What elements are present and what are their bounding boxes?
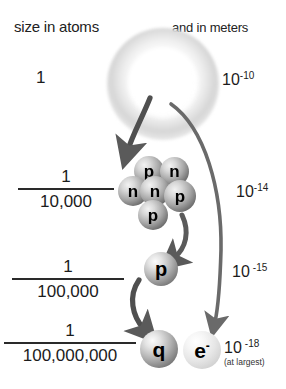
row-quark-exponent: -18 bbox=[245, 338, 259, 349]
particle-electron: e- bbox=[183, 331, 221, 369]
row-quark-size-in-atoms: 1 100,000,000 bbox=[4, 322, 136, 365]
row-proton-mantissa: 10 bbox=[232, 263, 250, 280]
row-atom-size-in-atoms: 1 bbox=[36, 68, 45, 88]
nucleon-proton-2: p bbox=[164, 180, 196, 212]
nucleon-proton-3: p bbox=[138, 200, 168, 230]
row-atom-exponent: -10 bbox=[240, 70, 254, 81]
nucleon-label: p bbox=[148, 207, 158, 224]
nucleon-label: n bbox=[150, 183, 160, 200]
fraction-bar-proton bbox=[12, 278, 124, 280]
particle-quark-label: q bbox=[153, 339, 166, 360]
row-quark-numerator: 1 bbox=[4, 322, 136, 340]
particle-proton: p bbox=[144, 252, 178, 286]
row-atom-mantissa: 10 bbox=[222, 71, 240, 88]
particle-electron-charge: - bbox=[206, 339, 210, 353]
particle-electron-label: e- bbox=[194, 340, 210, 361]
row-quark-meters-note: (at largest) bbox=[224, 357, 265, 367]
row-nucleus-size-in-meters: 10-14 bbox=[236, 182, 268, 201]
row-nucleus-mantissa: 10 bbox=[236, 183, 254, 200]
particle-quark: q bbox=[140, 330, 178, 368]
row-proton-denominator: 100,000 bbox=[12, 282, 124, 301]
nucleon-label: n bbox=[128, 183, 138, 200]
fraction-bar-quark bbox=[4, 342, 136, 344]
row-quark-denominator: 100,000,000 bbox=[4, 346, 136, 365]
row-quark-size-in-meters: 10-18 bbox=[224, 338, 259, 357]
row-proton-exponent: -15 bbox=[253, 262, 267, 273]
nucleus-cluster: p n n n p p bbox=[118, 156, 202, 232]
row-atom-size-in-meters: 10-10 bbox=[222, 70, 254, 89]
row-proton-size-in-atoms: 1 100,000 bbox=[12, 258, 124, 301]
row-quark-mantissa: 10 bbox=[224, 339, 242, 356]
row-proton-size-in-meters: 10-15 bbox=[232, 262, 267, 281]
row-nucleus-exponent: -14 bbox=[254, 182, 268, 193]
nucleon-label: n bbox=[169, 163, 179, 180]
particle-proton-label: p bbox=[155, 259, 167, 279]
row-nucleus-denominator: 10,000 bbox=[18, 192, 114, 211]
row-proton-numerator: 1 bbox=[12, 258, 124, 276]
diagram-canvas: size in atoms and in meters 1 10-10 1 10… bbox=[0, 0, 286, 389]
column-header-size-in-atoms: size in atoms bbox=[14, 18, 99, 35]
row-nucleus-size-in-atoms: 1 10,000 bbox=[18, 168, 114, 211]
row-nucleus-numerator: 1 bbox=[18, 168, 114, 186]
nucleon-label: p bbox=[175, 188, 185, 205]
atom-core bbox=[128, 48, 198, 118]
fraction-bar-nucleus bbox=[18, 188, 114, 190]
